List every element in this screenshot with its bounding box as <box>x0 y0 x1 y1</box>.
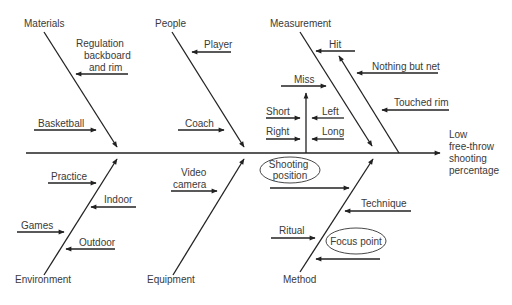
cause-nothing-but-net: Nothing but net <box>372 61 440 72</box>
cause-video-camera: Video camera <box>173 167 209 190</box>
category-equipment: Equipment <box>147 274 195 285</box>
cause-practice: Practice <box>51 171 88 182</box>
cause-miss: Miss <box>294 74 315 85</box>
cause-player: Player <box>204 39 233 50</box>
cause-hit: Hit <box>329 39 341 50</box>
cause-coach: Coach <box>185 118 214 129</box>
cause-games: Games <box>21 220 53 231</box>
cause-technique: Technique <box>361 198 407 209</box>
cause-ritual: Ritual <box>279 225 305 236</box>
cause-touched-rim: Touched rim <box>394 97 448 108</box>
cause-left: Left <box>322 106 339 117</box>
category-method: Method <box>283 274 316 285</box>
cause-long: Long <box>322 126 344 137</box>
cause-short: Short <box>266 106 290 117</box>
cause-outdoor: Outdoor <box>79 237 116 248</box>
cause-right: Right <box>266 126 290 137</box>
category-people: People <box>155 18 187 29</box>
cause-regulation: Regulation backboard and rim <box>76 38 133 73</box>
cause-basketball: Basketball <box>38 118 84 129</box>
cause-shooting-position: Shooting position <box>269 159 311 181</box>
category-materials: Materials <box>24 18 65 29</box>
category-measurement: Measurement <box>270 18 331 29</box>
fishbone-diagram: Low free-throw shooting percentage Mater… <box>0 0 512 305</box>
cause-focus-point: Focus point <box>330 236 382 247</box>
category-environment: Environment <box>15 274 71 285</box>
cause-indoor: Indoor <box>104 194 133 205</box>
effect-label: Low free-throw shooting percentage <box>449 129 499 176</box>
